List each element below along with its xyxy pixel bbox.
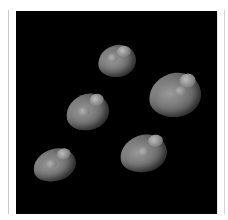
specimen-image-panel	[16, 11, 218, 214]
shell-lobe	[107, 53, 118, 63]
shell-specimen-1	[96, 43, 138, 80]
shell-specimen-3	[63, 90, 113, 134]
shell-specimen-2	[147, 70, 203, 119]
shell-lobe	[116, 45, 131, 58]
right-divider-line	[224, 10, 225, 214]
shell-lobe	[174, 86, 187, 97]
shell-specimen-4	[117, 131, 170, 176]
shell-lobe	[137, 146, 151, 158]
shell-lobe	[55, 147, 71, 161]
left-divider-line	[8, 10, 9, 214]
shell-lobe	[45, 159, 58, 170]
shell-specimen-5	[30, 144, 79, 185]
shell-lobe	[147, 134, 164, 148]
shell-lobe	[77, 106, 91, 118]
shell-lobe	[89, 93, 105, 108]
